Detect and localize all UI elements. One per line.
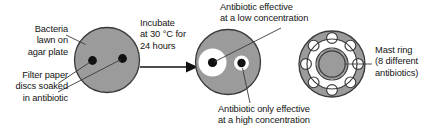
clear-zone-large	[199, 49, 227, 77]
label-incubate: Incubate at 30 °C for 24 hours	[140, 18, 200, 52]
mast-ring-hub	[319, 51, 345, 77]
clear-zone-small	[234, 56, 249, 71]
incubation-arrow	[140, 62, 198, 73]
leader-high-concentration	[243, 68, 251, 103]
plate-mast-ring	[299, 31, 365, 97]
filter-disc-right	[118, 54, 127, 63]
leader-low-concentration	[214, 28, 281, 62]
label-low-concentration: Antibiotic effective at a low concentrat…	[220, 2, 342, 25]
mast-ring-clear-zones	[301, 33, 364, 96]
mast-ring-lobe-8	[306, 38, 325, 57]
agar-plate-circle	[75, 28, 140, 93]
antibiotic-sensitivity-figure: Bacteria lawn on agar plate Filter paper…	[0, 0, 430, 136]
mast-ring-lobe-3	[347, 59, 363, 70]
mast-ring-lobe-4	[339, 71, 358, 90]
agar-plate-circle	[299, 31, 365, 97]
plate-after-incubation	[196, 30, 261, 95]
label-bacteria-lawn: Bacteria lawn on agar plate	[8, 24, 68, 58]
mast-ring-lobe-6	[306, 71, 325, 90]
mast-ring-lobe-2	[339, 38, 358, 57]
mast-ring-lobe-5	[327, 79, 338, 95]
filter-disc-left	[208, 58, 217, 67]
agar-plate-circle	[196, 30, 261, 95]
label-filter-paper-discs: Filter paper discs soaked in antibiotic	[2, 70, 68, 104]
label-mast-ring: Mast ring (8 different antibiotics)	[375, 45, 430, 79]
mast-ring-outlines	[301, 33, 364, 96]
mast-ring-lobe-1	[327, 33, 338, 49]
filter-disc-right	[237, 59, 245, 67]
label-high-concentration: Antibiotic only effective at a high conc…	[218, 104, 348, 127]
plate-before-incubation	[75, 28, 140, 93]
filter-disc-left	[88, 56, 97, 65]
mast-ring-lobe-7	[301, 59, 317, 70]
leader-bacteria-lawn	[66, 35, 86, 45]
figure-graphics	[0, 0, 430, 136]
